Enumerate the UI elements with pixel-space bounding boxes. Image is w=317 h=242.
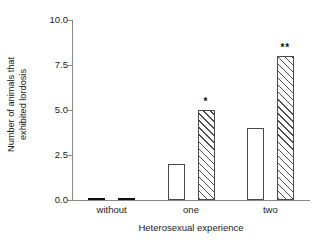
x-axis-tick-label-two: two [263, 204, 278, 216]
bar-two-open [247, 128, 264, 200]
significance-marker: ** [277, 43, 294, 53]
y-axis-title: Number of animals that exhibited lordosi… [0, 0, 34, 208]
y-axis-tick-label: 0.0 [38, 195, 68, 205]
y-axis-tick-mark [68, 155, 72, 156]
bar-two-hatched [277, 56, 294, 200]
plot-area: *** [72, 20, 310, 201]
y-axis-tick-label: 5.0 [38, 105, 68, 115]
significance-marker: * [198, 97, 215, 107]
y-axis-tick-label: 2.5 [38, 150, 68, 160]
x-axis-tick-labels: withoutonetwo [72, 204, 310, 218]
bar-one-open [168, 164, 185, 200]
y-axis-title-line-2: exhibited lordosis [17, 57, 29, 152]
y-axis-tick-mark [68, 200, 72, 201]
y-axis-spine [72, 20, 73, 201]
y-axis-tick-label: 7.5 [38, 60, 68, 70]
y-axis-tick-labels: 0.02.55.07.510.0 [36, 0, 68, 242]
bar-chart-figure: Number of animals that exhibited lordosi… [0, 0, 317, 242]
y-axis-tick-label: 10.0 [38, 15, 68, 25]
y-axis-tick-mark [68, 110, 72, 111]
x-axis-tick-label-without: without [97, 204, 127, 216]
bar-one-hatched [198, 110, 215, 200]
x-axis-spine [72, 200, 310, 201]
bar-without-hatched [118, 198, 135, 200]
y-axis-tick-mark [68, 65, 72, 66]
y-axis-title-line-1: Number of animals that [6, 57, 18, 152]
x-axis-tick-label-one: one [183, 204, 199, 216]
x-axis-title: Heterosexual experience [72, 222, 310, 233]
bar-without-open [88, 198, 105, 200]
y-axis-tick-mark [68, 20, 72, 21]
